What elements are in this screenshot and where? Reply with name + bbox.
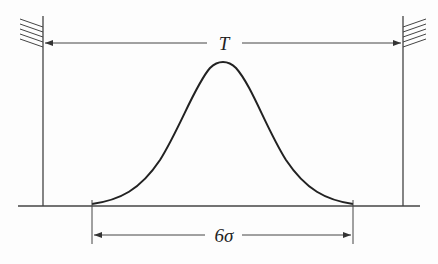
tolerance-vs-spread-diagram: T 6σ — [0, 0, 438, 264]
spread-dimension: 6σ — [92, 200, 353, 246]
diagram-svg: T 6σ — [0, 0, 438, 264]
right-hatching-icon — [403, 19, 426, 47]
right-wall — [403, 16, 426, 206]
tolerance-dimension: T — [45, 33, 401, 54]
left-hatching-icon — [20, 19, 43, 47]
normal-distribution-curve — [92, 62, 353, 204]
tolerance-label: T — [219, 33, 231, 54]
left-wall — [20, 16, 43, 206]
spread-label: 6σ — [215, 225, 235, 246]
